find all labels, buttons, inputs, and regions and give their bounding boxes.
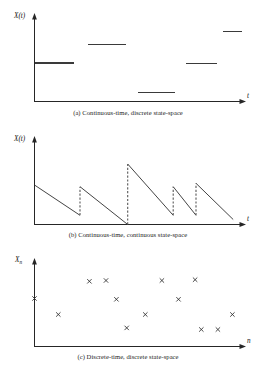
panel-b-y-axis-arrow-icon (32, 136, 37, 143)
panel-a-caption: (a) Continuous-time, discrete state-spac… (0, 109, 256, 116)
panel-c-plot (0, 244, 256, 352)
panel-c-scatter-markers (32, 278, 234, 332)
panel-c-caption: (c) Discrete-time, discrete state-space (0, 353, 256, 360)
panel-a-plot (0, 0, 256, 108)
panel-c-y-axis-arrow-icon (32, 258, 37, 265)
panel-b-jump-lines (80, 164, 196, 225)
panel-a-y-axis-arrow-icon (32, 13, 37, 20)
panel-a-continuous-time-discrete-state: X(t) t (a) Continuous-time, discrete sta… (0, 0, 256, 124)
panel-b-x-axis-arrow-icon (240, 222, 247, 227)
panel-b-sawtooth-trace (35, 164, 234, 225)
panel-b-continuous-time-continuous-state: X(t) t (b) Continuous-time, contin (0, 122, 256, 246)
panel-b-plot (0, 122, 256, 230)
panel-a-x-axis-arrow-icon (240, 99, 247, 104)
panel-b-caption: (b) Continuous-time, continuous state-sp… (0, 231, 256, 238)
panel-a-step-trace (35, 32, 242, 93)
panel-c-x-axis-arrow-icon (240, 344, 247, 349)
panel-c-discrete-time-discrete-state: Xn n (c) Disc (0, 244, 256, 368)
figure-container: X(t) t (a) Continuous-time, discrete sta… (0, 0, 256, 371)
